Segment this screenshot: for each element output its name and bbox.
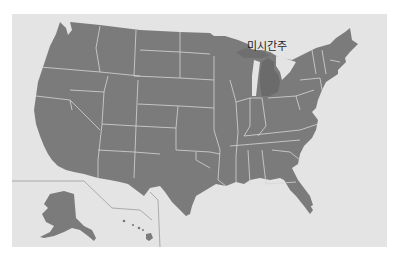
- state-label-michigan: 미시간주: [247, 37, 287, 53]
- alaska-shape: [40, 191, 96, 241]
- contiguous-us-shape: [34, 22, 358, 216]
- us-map: [0, 0, 399, 255]
- hawaii-shape: [123, 220, 153, 241]
